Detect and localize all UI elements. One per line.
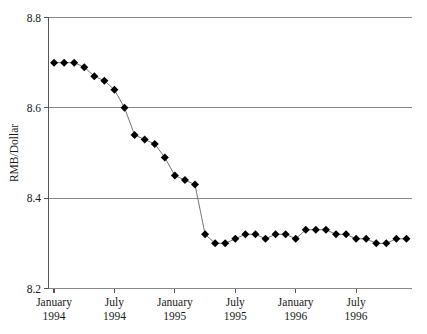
x-tick-label-year-4: 1996 — [284, 310, 307, 322]
y-tick-label-8.8: 8.8 — [27, 12, 42, 24]
x-tick-label-year-0: 1994 — [43, 310, 66, 322]
line-chart: 8.88.68.48.2 January1994July1994January1… — [0, 0, 427, 334]
x-tick-label-year-2: 1995 — [163, 310, 186, 322]
x-tick-label-month-4: January — [278, 296, 314, 309]
chart-background — [0, 0, 427, 334]
x-tick-label-month-1: July — [105, 296, 124, 309]
x-tick-label-month-0: January — [36, 296, 72, 309]
x-tick-label-year-3: 1995 — [224, 310, 247, 322]
x-tick-label-year-5: 1996 — [345, 310, 368, 322]
y-axis-title-group: RMB/Dollar — [8, 124, 20, 182]
y-tick-label-8.2: 8.2 — [27, 283, 42, 295]
x-tick-label-month-5: July — [347, 296, 366, 309]
chart-container: 8.88.68.48.2 January1994July1994January1… — [0, 0, 427, 334]
x-tick-label-month-2: January — [157, 296, 193, 309]
x-tick-label-year-1: 1994 — [103, 310, 126, 322]
x-tick-label-month-3: July — [226, 296, 245, 309]
y-axis-title: RMB/Dollar — [8, 124, 20, 182]
y-tick-label-8.6: 8.6 — [27, 102, 42, 114]
y-tick-label-8.4: 8.4 — [27, 192, 42, 204]
